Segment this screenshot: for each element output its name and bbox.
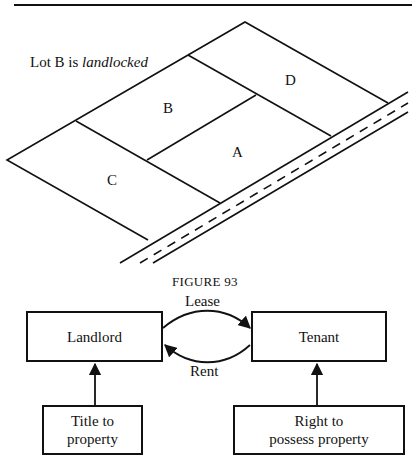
note-emphasis: landlocked <box>82 54 148 70</box>
lot-d-label: D <box>285 73 296 88</box>
tenant-box: Tenant <box>251 311 387 362</box>
lot-b-label: B <box>163 101 173 116</box>
lot-a-label: A <box>232 145 243 160</box>
lease-label: Lease <box>185 294 220 309</box>
lease-arrow <box>163 311 250 328</box>
right-line-1: Right to <box>295 412 344 430</box>
right-line-2: possess property <box>269 430 369 448</box>
landlord-box: Landlord <box>26 311 163 362</box>
rent-arrow <box>165 345 250 362</box>
lot-c-label: C <box>107 173 117 188</box>
road-center-line <box>140 103 408 263</box>
rent-label: Rent <box>190 364 218 379</box>
landlocked-note: Lot B is landlocked <box>30 55 148 70</box>
note-prefix: Lot B is <box>30 54 82 70</box>
right-to-possess-box: Right to possess property <box>233 405 405 455</box>
landlord-label: Landlord <box>67 328 122 346</box>
title-line-1: Title to <box>71 412 114 430</box>
figure-caption: FIGURE 93 <box>172 274 238 290</box>
tenant-label: Tenant <box>299 328 340 346</box>
title-to-property-box: Title to property <box>42 405 143 455</box>
title-line-2: property <box>67 430 118 448</box>
